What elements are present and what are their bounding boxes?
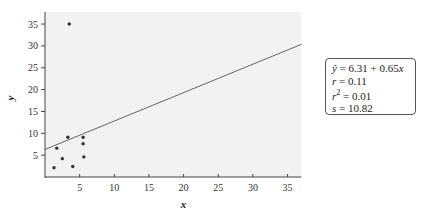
y-tick-label: 15 [28,106,38,117]
std-error-s: s = 10.82 [332,102,415,115]
y-tick-label: 5 [33,150,38,161]
correlation-r: r = 0.11 [332,75,415,88]
y-tick-label: 10 [28,128,38,139]
x-tick-label: 15 [144,182,154,193]
y-tick-label: 20 [28,84,38,95]
r2-value: = 0.01 [340,90,371,102]
x-tick-label: 5 [77,182,82,193]
y-axis-label: y [4,95,16,102]
equation-var: x [399,62,404,74]
regression-equation: ŷ = 6.31 + 0.65x [332,62,415,75]
regression-stats-box: ŷ = 6.31 + 0.65x r = 0.11 r2 = 0.01 s = … [325,58,416,115]
s-value: = 10.82 [336,102,372,114]
x-tick-label: 25 [213,182,223,193]
r-squared: r2 = 0.01 [332,87,415,102]
data-point [82,155,85,158]
y-tick-label: 35 [28,19,38,30]
plot-area [45,12,301,177]
equation-rhs: = 6.31 + 0.65 [337,62,399,74]
data-point [81,136,84,139]
r-value: = 0.11 [336,75,367,87]
data-point [71,165,74,168]
data-point [81,142,84,145]
y-tick-label: 30 [28,40,38,51]
data-point [61,157,64,160]
x-tick-label: 10 [109,182,119,193]
data-point [66,136,69,139]
x-tick-label: 30 [248,182,258,193]
data-point [68,22,71,25]
data-point [55,146,58,149]
x-tick-label: 20 [179,182,189,193]
data-point [52,166,55,169]
x-tick-label: 35 [283,182,293,193]
y-tick-label: 25 [28,62,38,73]
x-axis-label: x [180,198,187,210]
